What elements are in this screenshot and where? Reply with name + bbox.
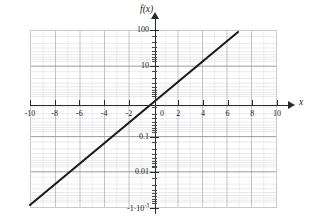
x-tick-label: 2: [176, 110, 180, 118]
y-tick-label: 100: [121, 26, 149, 34]
semilog-plot-figure: f(x) x -10 -8 -6 -4 -2 0 2 4 6 8 10: [0, 0, 313, 221]
y-minor-tick: [152, 163, 157, 164]
x-tick-label: -8: [51, 110, 58, 118]
y-minor-tick: [152, 54, 157, 55]
x-tick-mark: [277, 100, 278, 105]
x-tick-mark: [104, 100, 105, 105]
x-tick-label: 4: [201, 110, 205, 118]
y-minor-tick: [152, 185, 157, 186]
y-tick-mark: [150, 208, 159, 209]
y-tick-label-exponential: -1·10-3: [112, 203, 149, 213]
y-minor-tick: [152, 190, 157, 191]
y-minor-tick: [152, 71, 157, 72]
x-tick-label: -6: [76, 110, 83, 118]
x-tick-mark: [30, 100, 31, 105]
y-minor-tick: [152, 130, 157, 131]
x-tick-label: -10: [25, 110, 36, 118]
y-tick-label: 0.01: [118, 168, 149, 176]
x-axis-arrow-icon: [288, 101, 295, 109]
y-minor-tick: [152, 90, 157, 91]
x-tick-label: 6: [226, 110, 230, 118]
y-minor-tick: [152, 57, 157, 58]
y-minor-tick: [152, 122, 157, 123]
x-tick-label: -2: [125, 110, 132, 118]
y-minor-tick: [152, 132, 157, 133]
y-minor-tick: [152, 61, 157, 62]
x-tick-label: 0: [160, 110, 164, 118]
y-tick-label: 10: [121, 62, 149, 70]
y-minor-tick: [152, 178, 157, 179]
y-minor-tick: [152, 114, 157, 115]
y-minor-tick: [152, 167, 157, 168]
x-tick-label: 8: [250, 110, 254, 118]
y-minor-tick: [152, 92, 157, 93]
x-tick-mark: [129, 100, 130, 105]
y-minor-tick: [152, 166, 157, 167]
y-minor-tick: [152, 47, 157, 48]
x-tick-mark: [252, 100, 253, 105]
y-minor-tick: [152, 36, 157, 37]
y-minor-tick: [152, 42, 157, 43]
x-axis-label: x: [299, 98, 303, 108]
y-minor-tick: [152, 199, 157, 200]
y-minor-tick: [152, 51, 157, 52]
y-minor-tick: [152, 59, 157, 60]
y-axis-label: f(x): [140, 5, 153, 15]
y-minor-tick: [152, 203, 157, 204]
y-minor-tick: [152, 83, 157, 84]
y-minor-tick: [152, 128, 157, 129]
y-minor-tick: [152, 201, 157, 202]
y-minor-tick: [152, 142, 157, 143]
y-minor-tick: [152, 158, 157, 159]
y-tick-exponent: -3: [144, 202, 149, 208]
y-minor-tick: [152, 118, 157, 119]
x-tick-mark: [178, 100, 179, 105]
y-minor-tick: [152, 78, 157, 79]
y-tick-mark: [150, 172, 159, 173]
y-minor-tick: [152, 196, 157, 197]
y-tick-label: 0.1: [121, 133, 149, 141]
x-tick-label: 10: [273, 110, 281, 118]
y-minor-tick: [152, 94, 157, 95]
x-tick-mark: [55, 100, 56, 105]
x-tick-mark: [228, 100, 229, 105]
y-minor-tick: [152, 87, 157, 88]
y-tick-mark: [150, 30, 159, 31]
y-minor-tick: [152, 149, 157, 150]
y-minor-tick: [152, 96, 157, 97]
y-minor-tick: [152, 154, 157, 155]
y-tick-mark: [150, 66, 159, 67]
y-minor-tick: [152, 107, 157, 108]
x-tick-mark: [203, 100, 204, 105]
y-tick-mark: [150, 137, 159, 138]
x-tick-mark: [79, 100, 80, 105]
x-tick-label: -4: [101, 110, 108, 118]
y-tick-mantissa: -1·10: [127, 204, 144, 213]
y-minor-tick: [152, 193, 157, 194]
y-minor-tick: [152, 125, 157, 126]
y-minor-tick: [152, 161, 157, 162]
